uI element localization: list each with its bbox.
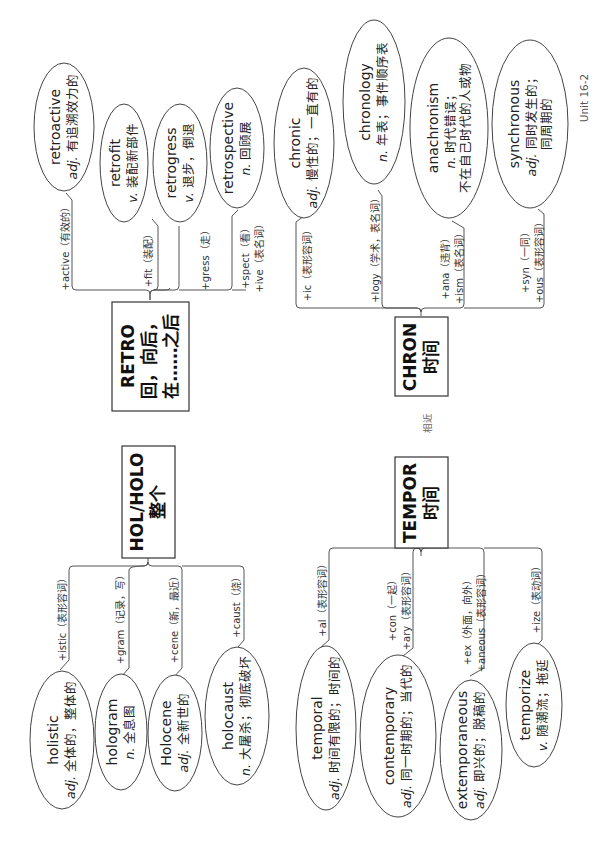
node-chronology: chronology n. 年表；事件顺序表 [357, 42, 390, 162]
root-tempor-label: TEMPOR 时间 [400, 463, 443, 543]
node-temporize: temporize v. 随潮流；拖延 [517, 659, 550, 751]
affix-temporize: +ize（表动词） [530, 561, 544, 634]
tempor-connectors [320, 548, 542, 676]
chron-connectors [296, 190, 544, 316]
hol-connectors [60, 558, 244, 677]
node-retrospective: retrospective n. 回顾展 [220, 102, 253, 194]
affix-holocene: +cene（新，最近） [168, 571, 182, 664]
node-chronic: chronic adj. 慢性的；一直有的 [287, 77, 320, 208]
node-retrogress: retrogress v. 退步，倒退 [163, 123, 196, 202]
affix-chronology: +logy（学术，表名词） [369, 193, 383, 303]
relation-label: 相近 [422, 413, 434, 433]
node-hologram: hologram n. 全息图 [104, 699, 137, 766]
unit-label: Unit 16-2 [578, 74, 591, 123]
affix-hologram: +gram（记录，写） [114, 570, 128, 665]
affix-retrospective: +spect（看） +ive（表名词） [239, 219, 266, 292]
retro-connectors [66, 193, 246, 300]
node-extemporaneous: extemporaneous adj. 即兴的；脱稿的 [454, 691, 487, 809]
affix-holocaust: +caust（烧） [230, 572, 244, 637]
affix-retroactive: +active（有效的） [59, 202, 73, 291]
node-holistic: holistic adj. 全体的，整体的 [45, 681, 78, 799]
affix-chronic: +ic（表形容词） [301, 225, 315, 302]
affix-retrogress: +gress（走） [199, 225, 213, 290]
node-temporal: temporal adj. 时间有限的；时间的 [309, 656, 342, 800]
root-hol-label: HOL/HOLO 整个 [127, 452, 170, 551]
node-retrofit: retrofit v. 装配新部件 [107, 123, 140, 202]
affix-contemporary: +con（一起） +ary（表形容词） [386, 566, 413, 651]
node-holocaust: holocaust n. 大屠杀；彻底破坏 [220, 656, 253, 776]
affix-holistic: +istic（表形容词） [56, 573, 70, 662]
affix-retrofit: +fit（装配） [142, 229, 156, 288]
root-retro-label: RETRO 回，向后， 在……之后 [118, 314, 182, 399]
affix-extemporaneous: +ex（外面，向外） +aneous（表形容词） [461, 568, 488, 673]
node-contemporary: contemporary adj. 同一时期的；当代的 [381, 664, 414, 808]
node-synchronous: synchronous adj. 同时发生的； 同周期的 [506, 71, 555, 176]
affix-synchronous: +syn（一同） +ous（表形容词） [519, 217, 546, 303]
affix-anachronism: +ana（违背） +ism（表名词） [439, 228, 466, 304]
node-retroactive: retroactive adj. 有追溯效力的 [47, 74, 80, 179]
node-anachronism: anachronism n. 时代错误； 不在自己时代的人或物 [425, 63, 474, 193]
affix-temporal: +al（表形容词） [316, 559, 330, 636]
root-chron-label: CHRON 时间 [400, 323, 443, 391]
node-holocene: Holocene adj. 全新世的 [158, 693, 191, 772]
